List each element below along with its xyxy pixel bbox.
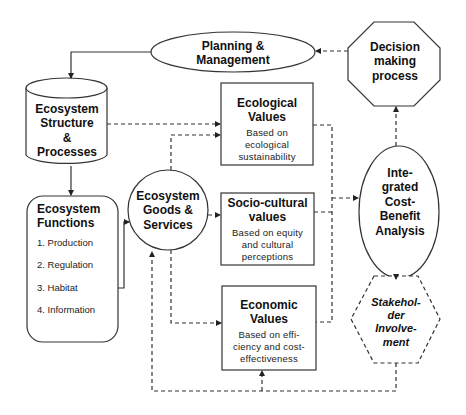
ecological-label: Ecological Values Based on ecological su…: [221, 96, 313, 162]
structure-line-4: Processes: [26, 145, 108, 159]
socio-sub-line-1: Based on equity: [221, 227, 314, 239]
structure-line-3: &: [26, 131, 108, 145]
socio-title-line-2: values: [221, 210, 314, 224]
integrated-label: Inte- grated Cost- Benefit Analysis: [360, 166, 440, 238]
decision-line-3: process: [350, 69, 440, 83]
functions-title-line-1: Ecosystem: [37, 202, 117, 216]
functions-list: 1. Production 2. Regulation 3. Habitat 4…: [37, 237, 117, 316]
structure-label: Ecosystem Structure & Processes: [26, 102, 108, 160]
edge-goods-ecological: [171, 135, 220, 170]
economic-title-line-2: Values: [222, 312, 316, 326]
functions-label: Ecosystem Functions 1. Production 2. Reg…: [37, 202, 117, 315]
stakeholder-label: Stakehol- der Involve- ment: [355, 296, 437, 349]
structure-line-2: Structure: [26, 116, 108, 130]
socio-subtitle: Based on equity and cultural perceptions: [221, 227, 314, 263]
ecological-sub-line-1: Based on: [221, 127, 313, 139]
functions-item: 3. Habitat: [37, 282, 117, 293]
goods-line-3: Services: [128, 218, 208, 232]
economic-sub-line-3: effectiveness: [222, 353, 316, 365]
socio-sub-line-3: perceptions: [221, 251, 314, 263]
socio-title-line-1: Socio-cultural: [221, 196, 314, 210]
functions-item: 2. Regulation: [37, 259, 117, 270]
decision-line-1: Decision: [350, 40, 440, 54]
socio-label: Socio-cultural values Based on equity an…: [221, 196, 314, 262]
economic-title-line-1: Economic: [222, 298, 316, 312]
planning-label: Planning & Management: [183, 39, 283, 68]
stakeholder-line-1: Stakehol-: [355, 296, 437, 309]
socio-sub-line-2: and cultural: [221, 239, 314, 251]
edge-goods-economic: [171, 250, 221, 323]
economic-label: Economic Values Based on effi- ciency an…: [222, 298, 316, 364]
goods-line-1: Ecosystem: [128, 189, 208, 203]
ecological-sub-line-3: sustainability: [221, 151, 313, 163]
edge-planning-structure: [71, 52, 151, 78]
ecological-title-line-1: Ecological: [221, 96, 313, 110]
economic-subtitle: Based on effi- ciency and cost- effectiv…: [222, 329, 316, 365]
decision-line-2: making: [350, 54, 440, 68]
economic-sub-line-1: Based on effi-: [222, 329, 316, 341]
economic-sub-line-2: ciency and cost-: [222, 341, 316, 353]
ecological-subtitle: Based on ecological sustainability: [221, 127, 313, 163]
ecological-title-line-2: Values: [221, 110, 313, 124]
goods-label: Ecosystem Goods & Services: [128, 189, 208, 232]
integrated-line-3: Cost-: [360, 195, 440, 209]
integrated-line-5: Analysis: [360, 224, 440, 238]
integrated-line-2: grated: [360, 180, 440, 194]
integrated-line-1: Inte-: [360, 166, 440, 180]
functions-title-line-2: Functions: [37, 216, 117, 230]
functions-item: 1. Production: [37, 237, 117, 248]
stakeholder-line-4: ment: [355, 336, 437, 349]
stakeholder-line-3: Involve-: [355, 322, 437, 335]
diagram-canvas: Planning & Management Decision making pr…: [0, 0, 466, 415]
decision-label: Decision making process: [350, 40, 440, 83]
stakeholder-line-2: der: [355, 309, 437, 322]
planning-line-1: Planning &: [183, 39, 283, 53]
ecological-title: Ecological Values: [221, 96, 313, 125]
economic-title: Economic Values: [222, 298, 316, 327]
ecological-sub-line-2: ecological: [221, 139, 313, 151]
functions-item: 4. Information: [37, 304, 117, 315]
goods-line-2: Goods &: [128, 203, 208, 217]
structure-line-1: Ecosystem: [26, 102, 108, 116]
integrated-line-4: Benefit: [360, 209, 440, 223]
socio-title: Socio-cultural values: [221, 196, 314, 225]
planning-line-2: Management: [183, 53, 283, 67]
functions-title: Ecosystem Functions: [37, 202, 117, 231]
